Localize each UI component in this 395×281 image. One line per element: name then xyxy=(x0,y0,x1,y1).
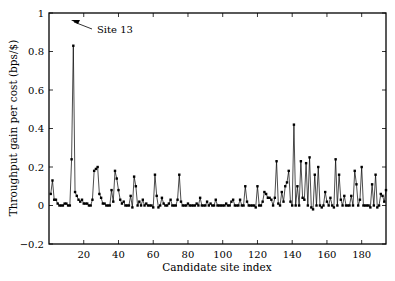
annotation-label: Site 13 xyxy=(97,24,133,35)
data-line xyxy=(51,46,386,210)
x-tick-label: 60 xyxy=(147,249,160,260)
x-tick-label: 20 xyxy=(77,249,90,260)
x-tick-label: 100 xyxy=(213,249,232,260)
y-tick-label: −0.2 xyxy=(20,239,44,250)
x-axis-label: Candidate site index xyxy=(162,261,271,273)
annotation: Site 13 xyxy=(71,20,133,35)
line-chart: 20406080100120140160180−0.200.20.40.60.8… xyxy=(0,0,395,281)
y-tick-label: 0.4 xyxy=(28,123,44,134)
y-tick-label: 1 xyxy=(38,8,44,19)
x-tick-label: 160 xyxy=(317,249,336,260)
x-tick-label: 120 xyxy=(248,249,267,260)
x-tick-label: 140 xyxy=(283,249,302,260)
x-tick-label: 180 xyxy=(352,249,371,260)
x-tick-label: 80 xyxy=(182,249,195,260)
y-axis-label: Throughput gain per cost (bps/$) xyxy=(7,40,19,217)
y-tick-label: 0 xyxy=(38,200,44,211)
plot-frame xyxy=(49,13,386,244)
x-tick-label: 40 xyxy=(112,249,125,260)
y-tick-label: 0.2 xyxy=(28,162,44,173)
y-tick-label: 0.8 xyxy=(28,46,44,57)
y-tick-label: 0.6 xyxy=(28,85,44,96)
